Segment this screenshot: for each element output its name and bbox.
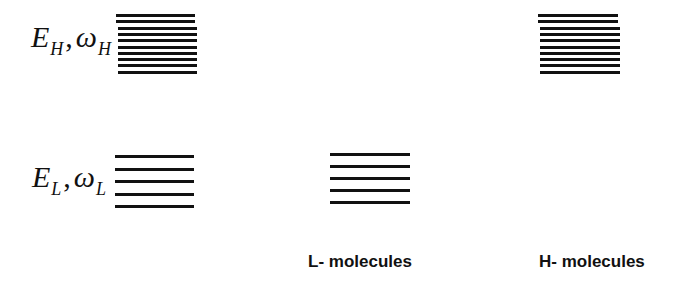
energy-level-line [118, 52, 197, 55]
energy-level-line [540, 33, 620, 36]
energy-level-line [538, 14, 618, 17]
energy-level-line [115, 193, 194, 196]
frequency-subscript: H [98, 39, 111, 59]
energy-level-line [118, 39, 197, 42]
energy-level-line [118, 71, 197, 74]
h-molecules-label: H- molecules [539, 252, 645, 272]
energy-level-line [115, 168, 194, 171]
energy-level-line [330, 177, 410, 180]
energy-level-line [540, 27, 620, 30]
energy-level-line [116, 14, 195, 17]
energy-subscript: L [51, 179, 61, 199]
energy-level-line [330, 189, 410, 192]
energy-level-line [118, 46, 197, 49]
frequency-symbol: ω [74, 160, 95, 193]
energy-level-line [540, 58, 620, 61]
energy-level-line [330, 165, 410, 168]
energy-level-line [118, 64, 197, 67]
high-energy-label: EH,ωH [31, 22, 111, 52]
energy-level-line [115, 205, 194, 208]
energy-level-line [115, 155, 194, 158]
energy-level-line [330, 201, 410, 204]
energy-level-line [540, 71, 620, 74]
energy-symbol: E [32, 160, 50, 193]
energy-level-line [115, 180, 194, 183]
low-energy-label: EL,ωL [32, 162, 106, 192]
energy-level-line [118, 58, 197, 61]
energy-level-line [118, 33, 197, 36]
energy-level-line [540, 52, 620, 55]
energy-level-line [118, 27, 197, 30]
frequency-subscript: L [96, 179, 106, 199]
energy-symbol: E [31, 20, 49, 53]
l-molecules-label: L- molecules [308, 252, 412, 272]
energy-level-line [116, 20, 195, 23]
energy-level-line [538, 20, 618, 23]
energy-level-line [540, 64, 620, 67]
energy-level-line [540, 39, 620, 42]
energy-level-line [540, 46, 620, 49]
separator: , [63, 160, 71, 193]
energy-level-diagram: EH,ωH EL,ωL L- molecules H- molecules [0, 0, 678, 289]
separator: , [65, 20, 73, 53]
energy-subscript: H [50, 39, 63, 59]
frequency-symbol: ω [76, 20, 97, 53]
energy-level-line [330, 153, 410, 156]
